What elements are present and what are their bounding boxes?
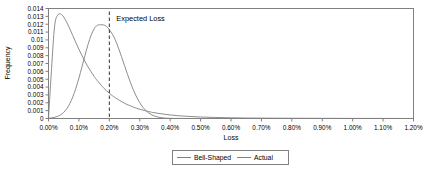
x-axis-tick-label: 1.10% xyxy=(374,124,392,131)
legend-label-2: Actual xyxy=(254,154,273,161)
x-axis: 0.00%0.10%0.20%0.30%0.40%0.50%0.60%0.70%… xyxy=(39,119,422,131)
y-axis-tick-label: 0.011 xyxy=(28,28,44,35)
y-axis-tick-label: 0.008 xyxy=(28,52,44,59)
y-axis-tick-label: 0.002 xyxy=(28,99,44,106)
x-axis-tick-label: 0.60% xyxy=(222,124,240,131)
y-axis-tick-label: 0.013 xyxy=(28,13,44,20)
y-axis-tick-label: 0.014 xyxy=(28,5,44,12)
x-axis-tick-label: 0.20% xyxy=(100,124,118,131)
frequency-loss-line-chart: 00.0010.0020.0030.0040.0050.0060.0070.00… xyxy=(0,0,442,169)
expected-loss-label: Expected Loss xyxy=(116,14,165,23)
y-axis-tick-label: 0 xyxy=(40,115,44,122)
series-group xyxy=(49,14,414,119)
y-axis-tick-label: 0.01 xyxy=(31,36,44,43)
y-axis-tick-label: 0.004 xyxy=(28,83,44,90)
chart-container: 00.0010.0020.0030.0040.0050.0060.0070.00… xyxy=(0,0,442,169)
y-axis-tick-label: 0.012 xyxy=(28,21,44,28)
y-axis: 00.0010.0020.0030.0040.0050.0060.0070.00… xyxy=(28,5,49,122)
x-axis-tick-label: 0.50% xyxy=(192,124,210,131)
y-axis-title: Frequency xyxy=(4,46,12,80)
expected-loss-annotation: Expected Loss xyxy=(109,12,165,119)
chart-legend: Bell-ShapedActual xyxy=(173,151,289,165)
y-axis-tick-label: 0.005 xyxy=(28,76,44,83)
x-axis-tick-label: 0.00% xyxy=(39,124,57,131)
x-axis-tick-label: 1.00% xyxy=(344,124,362,131)
series-line-actual xyxy=(49,14,414,119)
x-axis-tick-label: 0.30% xyxy=(131,124,149,131)
y-axis-tick-label: 0.007 xyxy=(28,60,44,67)
legend-label-1: Bell-Shaped xyxy=(194,154,231,162)
y-axis-tick-label: 0.001 xyxy=(28,107,44,114)
x-axis-tick-label: 1.20% xyxy=(404,124,422,131)
x-axis-tick-label: 0.70% xyxy=(252,124,270,131)
x-axis-tick-label: 0.80% xyxy=(283,124,301,131)
y-axis-tick-label: 0.006 xyxy=(28,68,44,75)
y-axis-tick-label: 0.003 xyxy=(28,91,44,98)
x-axis-tick-label: 0.10% xyxy=(70,124,88,131)
x-axis-tick-label: 0.90% xyxy=(313,124,331,131)
series-line-bell-shaped xyxy=(49,25,414,119)
x-axis-tick-label: 0.40% xyxy=(161,124,179,131)
y-axis-tick-label: 0.009 xyxy=(28,44,44,51)
x-axis-title: Loss xyxy=(224,134,239,141)
